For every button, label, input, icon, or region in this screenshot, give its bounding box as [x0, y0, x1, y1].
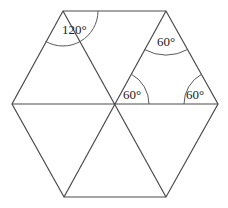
- angle-label-center-60: 60°: [123, 87, 141, 102]
- angle-label-120: 120°: [62, 22, 87, 37]
- hexagon-diagram: 120° 60° 60° 60°: [0, 0, 228, 208]
- angle-label-right-60: 60°: [186, 87, 204, 102]
- angle-label-top-60: 60°: [157, 34, 175, 49]
- angle-arc-top-60: [145, 50, 188, 56]
